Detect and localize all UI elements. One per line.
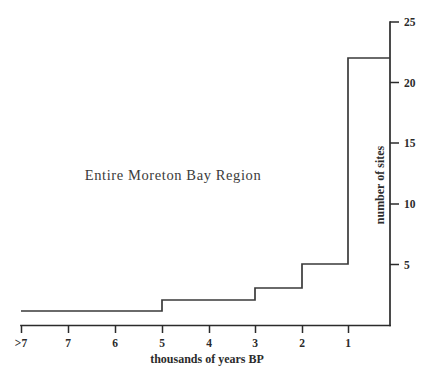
y-tick-label-20: 20 bbox=[404, 77, 416, 89]
y-tick-label-25: 25 bbox=[404, 16, 416, 28]
y-tick-label-15: 15 bbox=[404, 137, 416, 149]
x-tick-label-1: 7 bbox=[65, 337, 71, 349]
y-axis-label: number of sites bbox=[373, 145, 387, 224]
y-tick-label-10: 10 bbox=[404, 198, 416, 210]
plot-title: Entire Moreton Bay Region bbox=[85, 167, 262, 183]
y-tick-label-5: 5 bbox=[404, 259, 410, 271]
x-tick-label-7: 1 bbox=[345, 337, 351, 349]
x-tick-label-6: 2 bbox=[299, 337, 305, 349]
x-tick-label-5: 3 bbox=[252, 337, 258, 349]
x-axis-label: thousands of years BP bbox=[150, 352, 264, 366]
chart-canvas: >7 7 6 5 4 3 2 1 5 10 15 20 25 thousands… bbox=[0, 0, 445, 380]
x-tick-label-4: 4 bbox=[206, 337, 212, 349]
x-tick-label-0: >7 bbox=[15, 337, 28, 349]
histogram-chart: >7 7 6 5 4 3 2 1 5 10 15 20 25 thousands… bbox=[0, 0, 445, 380]
x-tick-label-3: 5 bbox=[159, 337, 165, 349]
x-tick-label-2: 6 bbox=[112, 337, 118, 349]
